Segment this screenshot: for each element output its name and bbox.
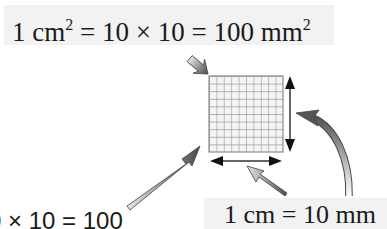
diagram-graphics bbox=[0, 0, 387, 229]
square-centimeter-grid bbox=[209, 76, 283, 152]
curved-pointer-arrow-icon bbox=[296, 110, 349, 196]
pointer-arrow-icon-bottom-left bbox=[127, 146, 200, 210]
pointer-arrow-icon-width bbox=[247, 166, 287, 196]
height-dimension-arrow-icon bbox=[285, 76, 295, 152]
diagram-canvas: 1 cm2 = 10 × 10 = 100 mm2 1 cm = 10 mm 0… bbox=[0, 0, 387, 229]
width-dimension-arrow-icon bbox=[210, 156, 282, 166]
